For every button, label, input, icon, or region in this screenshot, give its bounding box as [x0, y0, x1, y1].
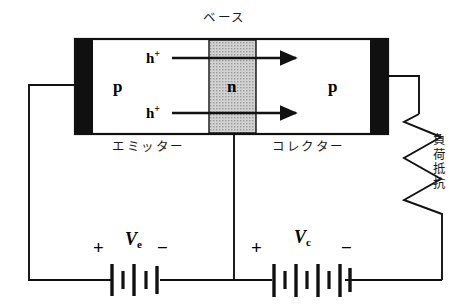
load-resistor-label: 負荷抵抗: [431, 133, 444, 191]
collector-supply-v: V: [294, 227, 306, 247]
emitter-supply-v: V: [125, 229, 137, 249]
emitter-battery-symbol: [112, 264, 157, 296]
collector-supply-subscript: c: [306, 236, 311, 248]
emitter-supply-plus: +: [93, 238, 104, 257]
emitter-supply-subscript: e: [137, 238, 142, 250]
collector-name-label: コレクター: [272, 141, 345, 154]
collector-supply-plus: +: [251, 238, 262, 257]
transistor-circuit-diagram: ベース p n p h+ h+ エミッター コレクター 負荷抵抗 + Ve − …: [0, 0, 473, 307]
collector-battery-symbol: [274, 264, 350, 297]
emitter-supply-symbol: Ve: [125, 230, 142, 248]
hole-charge-top: +: [154, 48, 160, 59]
collector-region-label: p: [328, 78, 337, 95]
hole-carrier-label-bottom: h+: [146, 104, 160, 121]
emitter-supply-minus: −: [157, 238, 168, 257]
base-region-label: n: [227, 78, 236, 95]
circuit-svg: [0, 0, 473, 307]
base-label: ベース: [203, 12, 246, 25]
collector-supply-minus: −: [341, 238, 352, 257]
emitter-region-label: p: [113, 78, 122, 95]
hole-carrier-label-top: h+: [146, 49, 160, 66]
hole-charge-bottom: +: [154, 103, 160, 114]
collector-supply-symbol: Vc: [294, 228, 311, 246]
emitter-name-label: エミッター: [112, 141, 185, 154]
